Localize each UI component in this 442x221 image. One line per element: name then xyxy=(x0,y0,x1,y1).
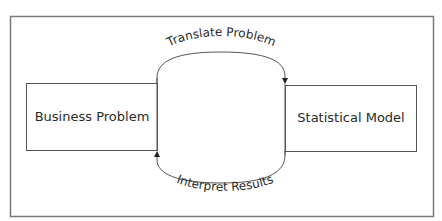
arrow-down-icon xyxy=(282,78,288,84)
diagram-canvas: Business Problem Statistical Model Trans… xyxy=(0,0,442,221)
node-business-problem: Business Problem xyxy=(27,84,158,151)
node-statistical-model-label: Statistical Model xyxy=(297,110,404,125)
edge-interpret-results-label: Interpret Results xyxy=(175,172,275,194)
node-business-problem-label: Business Problem xyxy=(35,109,150,124)
edge-interpret-results: Interpret Results xyxy=(154,151,285,194)
arrow-up-icon xyxy=(154,151,160,157)
edge-translate-problem-label: Translate Problem xyxy=(164,25,278,50)
node-statistical-model: Statistical Model xyxy=(286,86,417,152)
edge-translate-problem: Translate Problem xyxy=(157,25,288,84)
